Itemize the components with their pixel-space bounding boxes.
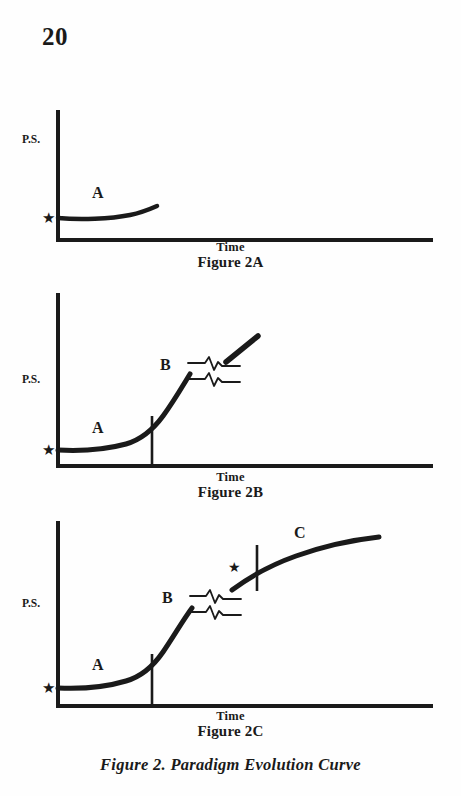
curve-label-b-2c: B (162, 589, 173, 606)
figure-2c-plot: ★ ★ P.S. A B C (0, 518, 461, 710)
curve-label-b-2b: B (160, 356, 171, 373)
curve-label-a-2a: A (92, 184, 104, 201)
curve-b-continued-2b (226, 336, 258, 362)
curve-ab-2c (58, 608, 192, 688)
figure-2a: ★ P.S. A Time Figure 2A (0, 110, 461, 245)
main-figure-caption: Figure 2. Paradigm Evolution Curve (0, 755, 461, 775)
star-icon-origin-2c: ★ (42, 680, 55, 696)
star-icon-new-paradigm-2c: ★ (228, 560, 241, 575)
x-axis-label-2c: Time (0, 710, 461, 723)
curve-a-2a (58, 206, 157, 219)
figure-2b: ★ P.S. A B Time Figure 2B (0, 290, 461, 472)
star-icon-origin-2a: ★ (42, 210, 55, 226)
y-axis-label-2c: P.S. (22, 597, 40, 609)
y-axis-label-2b: P.S. (22, 373, 40, 385)
document-page: 20 ★ P.S. A Time Figure 2A (0, 0, 461, 796)
page-number: 20 (42, 24, 68, 49)
figure-2c: ★ ★ P.S. A B C Time Figure 2C (0, 518, 461, 710)
curve-label-c-2c: C (294, 524, 306, 541)
figure-caption-2c: Figure 2C (0, 724, 461, 740)
x-axis-label-2a: Time (0, 241, 461, 254)
y-axis-label-2a: P.S. (22, 133, 40, 145)
break-symbol-2c (190, 590, 241, 619)
x-axis-label-2b: Time (0, 471, 461, 484)
curve-label-a-2b: A (92, 419, 104, 436)
figure-caption-2a: Figure 2A (0, 255, 461, 271)
star-icon-origin-2b: ★ (42, 442, 55, 458)
figure-2a-plot: ★ P.S. A (0, 110, 461, 245)
break-symbol-2b (188, 357, 240, 386)
curve-c-2c (232, 537, 379, 590)
figure-caption-2b: Figure 2B (0, 485, 461, 501)
curve-ab-2b (58, 374, 190, 450)
curve-label-a-2c: A (92, 656, 104, 673)
figure-2b-plot: ★ P.S. A B (0, 290, 461, 472)
